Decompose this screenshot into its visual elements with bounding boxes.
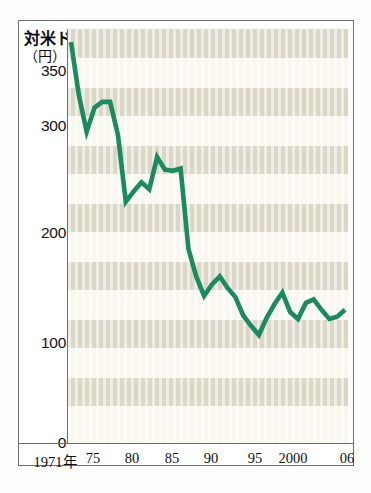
y-tick-350: 350 (18, 62, 66, 80)
x-tick-2000: 2000 (270, 450, 316, 467)
x-tick-90: 90 (196, 450, 226, 467)
plot-area (68, 29, 348, 443)
series-polyline (71, 42, 345, 335)
y-tick-300: 300 (18, 117, 66, 135)
y-tick-100: 100 (18, 334, 66, 352)
x-tick-80: 80 (117, 450, 147, 467)
y-tick-200: 200 (18, 224, 66, 242)
chart-figure: 対米ドル （円） 350 300 200 100 0 1971年 75 80 8… (0, 0, 371, 493)
x-tick-06: 06 (334, 450, 360, 467)
x-tick-75: 75 (78, 450, 108, 467)
x-axis-line (19, 443, 353, 444)
x-tick-95: 95 (240, 450, 270, 467)
y-axis-line (67, 29, 68, 443)
x-tick-85: 85 (157, 450, 187, 467)
series-line-chart (68, 29, 348, 443)
